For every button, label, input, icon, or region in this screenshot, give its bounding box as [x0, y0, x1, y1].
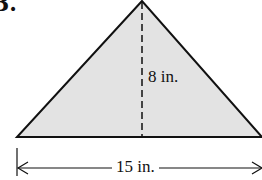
- triangle-figure: 3. 8 in. 15 in.: [0, 0, 262, 180]
- base-label: 15 in.: [112, 157, 159, 177]
- triangle-diagram: [0, 0, 262, 180]
- triangle-shape: [17, 1, 262, 137]
- height-label: 8 in.: [148, 67, 178, 87]
